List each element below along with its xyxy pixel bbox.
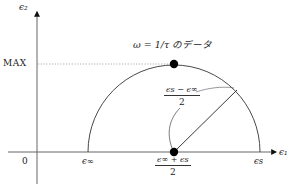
peak-annotation-label: ω = 1/τ のデータ: [133, 40, 212, 50]
radius-label-leader-top: [196, 87, 234, 92]
peak-point-icon: [170, 60, 178, 68]
eps-s-label: ϵs: [254, 157, 263, 166]
radius-fraction-numerator: ϵs − ϵ∞: [164, 86, 200, 96]
center-fraction-label: ϵ∞ + ϵs 2: [155, 156, 191, 177]
radius-fraction-denominator: 2: [179, 96, 185, 107]
diagram-canvas: [0, 0, 292, 184]
x-axis-label: ϵ₁: [279, 148, 288, 157]
center-fraction-denominator: 2: [170, 166, 176, 177]
radius-fraction-label: ϵs − ϵ∞ 2: [164, 86, 200, 107]
radius-label-leader: [169, 108, 180, 148]
max-label: MAX: [3, 59, 27, 68]
origin-label: 0: [22, 157, 28, 166]
semicircle-arc: [88, 65, 260, 152]
eps-inf-label: ϵ∞: [82, 157, 94, 166]
center-fraction-numerator: ϵ∞ + ϵs: [155, 156, 191, 166]
y-axis-label: ϵ₂: [19, 3, 28, 12]
